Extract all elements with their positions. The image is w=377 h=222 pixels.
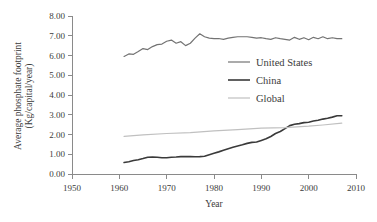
y-tick-label: 0.00 xyxy=(49,169,65,179)
y-tick-label: 5.00 xyxy=(49,70,65,80)
y-axis-ticks xyxy=(68,16,72,174)
y-tick-label: 6.00 xyxy=(49,51,65,61)
series-line-united-states xyxy=(124,34,342,57)
x-tick-label: 1980 xyxy=(205,183,224,193)
x-tick-label: 2000 xyxy=(300,183,319,193)
series-line-china xyxy=(124,116,342,163)
legend-label-china: China xyxy=(256,75,281,86)
y-tick-label: 4.00 xyxy=(49,90,65,100)
x-axis-tick-labels: 1950196019701980199020002010 xyxy=(63,183,366,193)
x-tick-label: 1990 xyxy=(252,183,271,193)
x-axis-title: Year xyxy=(205,199,223,209)
y-tick-label: 3.00 xyxy=(49,110,65,120)
y-axis-title: Average phosphate footprint (Kg/capital/… xyxy=(13,42,35,150)
y-axis-title-line2: (Kg/capital/year) xyxy=(24,64,35,129)
x-axis-ticks xyxy=(72,174,356,179)
x-tick-label: 1960 xyxy=(110,183,129,193)
y-tick-label: 2.00 xyxy=(49,130,65,140)
chart-figure: Average phosphate footprint (Kg/capital/… xyxy=(0,0,377,222)
y-tick-label: 1.00 xyxy=(49,149,65,159)
x-tick-label: 2010 xyxy=(347,183,366,193)
y-tick-label: 8.00 xyxy=(49,11,65,21)
x-tick-label: 1970 xyxy=(158,183,177,193)
series-line-global xyxy=(124,123,342,136)
y-axis-tick-labels: 0.001.002.003.004.005.006.007.008.00 xyxy=(49,11,65,179)
y-axis-title-line1: Average phosphate footprint xyxy=(13,42,23,150)
legend-label-global: Global xyxy=(256,93,285,104)
legend-label-united-states: United States xyxy=(256,57,312,68)
line-chart-canvas: Average phosphate footprint (Kg/capital/… xyxy=(0,0,377,222)
chart-legend: United StatesChinaGlobal xyxy=(228,57,312,104)
y-tick-label: 7.00 xyxy=(49,31,65,41)
x-tick-label: 1950 xyxy=(63,183,82,193)
